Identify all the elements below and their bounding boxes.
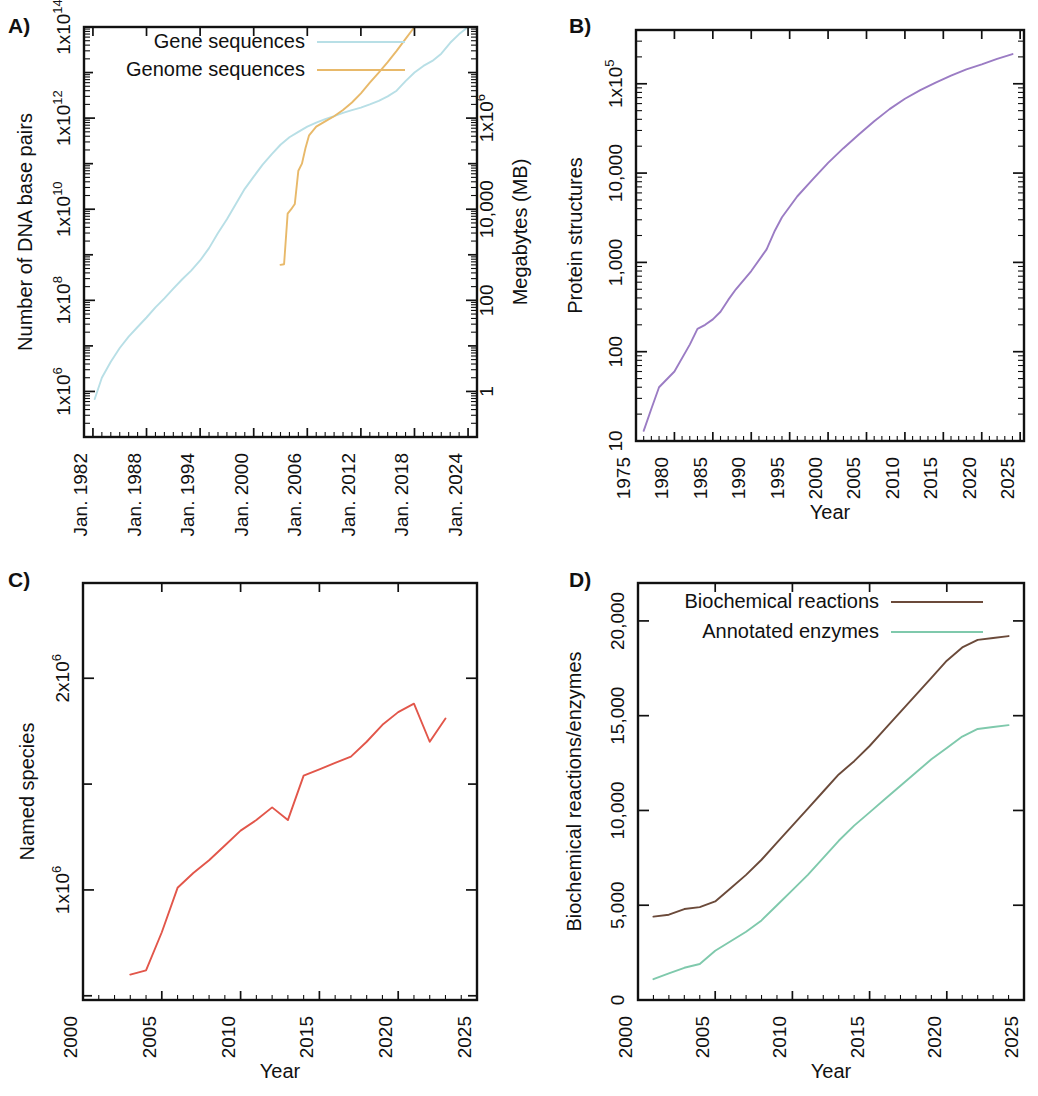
plot-frame (83, 583, 477, 1000)
tick-label: 1x106 (50, 367, 74, 415)
panel-a-letter: A) (8, 14, 30, 38)
tick-label: 1985 (690, 457, 711, 499)
x-axis-label: Year (811, 1060, 852, 1082)
tick-label: 1x105 (602, 60, 626, 108)
series-line-0 (644, 54, 1013, 431)
panel-b-chart: 1975198019851990199520002005201020152020… (519, 0, 1038, 560)
tick-label: 2010 (882, 457, 903, 499)
x-axis-label: Year (810, 501, 851, 523)
y-axis-label: Number of DNA base pairs (14, 113, 36, 351)
panel-b-letter: B) (569, 14, 591, 38)
tick-label: Jan. 2018 (391, 453, 412, 536)
panel-a: A) Jan. 1982Jan. 1988Jan. 1994Jan. 2000J… (0, 0, 519, 560)
panel-d-letter: D) (569, 568, 591, 592)
panel-d-chart: 20002005201020152020202505,00010,00015,0… (519, 560, 1038, 1096)
plot-frame (84, 27, 477, 437)
legend-label: Biochemical reactions (684, 590, 879, 612)
tick-label: 1x108 (50, 276, 74, 324)
tick-label: 15,000 (607, 687, 628, 745)
tick-label: 1x1014 (50, 0, 74, 55)
legend-label: Genome sequences (126, 58, 305, 80)
tick-label: 10,000 (607, 781, 628, 839)
tick-label: 0 (607, 995, 628, 1006)
tick-label: 1980 (651, 457, 672, 499)
tick-label: 1x1010 (50, 181, 74, 237)
tick-label: 2025 (997, 457, 1018, 499)
tick-label: 2010 (769, 1016, 790, 1058)
tick-label: 2015 (296, 1016, 317, 1058)
panel-d: D) 20002005201020152020202505,00010,0001… (519, 560, 1038, 1096)
tick-label: 2005 (843, 457, 864, 499)
tick-label: 2020 (924, 1016, 945, 1058)
tick-label: 5,000 (607, 881, 628, 929)
panel-c: C) 2000200520102015202020251x1062x106Nam… (0, 560, 519, 1096)
series-line-1 (653, 725, 1008, 979)
x-axis-label: Year (260, 1060, 301, 1082)
tick-label: Jan. 2000 (231, 453, 252, 536)
series-line-0 (653, 636, 1008, 917)
tick-label: 2015 (847, 1016, 868, 1058)
tick-label: 2015 (920, 457, 941, 499)
tick-label: 1995 (767, 457, 788, 499)
tick-label: Jan. 2012 (338, 453, 359, 536)
tick-label: 1975 (613, 457, 634, 499)
tick-label: 1990 (728, 457, 749, 499)
panel-c-chart: 2000200520102015202020251x1062x106Named … (0, 560, 519, 1096)
tick-label: 2010 (218, 1016, 239, 1058)
tick-label: 20,000 (607, 592, 628, 650)
y-axis-label: Named species (16, 723, 38, 861)
tick-label: Jan. 2024 (445, 453, 466, 537)
tick-label: 2x106 (49, 654, 73, 702)
tick-label: 1x1012 (50, 90, 74, 146)
tick-label: 2000 (60, 1016, 81, 1058)
tick-label: Jan. 1994 (177, 453, 198, 537)
tick-label: Jan. 1988 (124, 453, 145, 536)
tick-label: Jan. 1982 (70, 453, 91, 536)
tick-label: 2005 (139, 1016, 160, 1058)
tick-label: 10 (605, 430, 626, 451)
tick-label: 2020 (375, 1016, 396, 1058)
series-line-0 (130, 704, 445, 975)
tick-label: 100 (605, 336, 626, 368)
legend-label: Gene sequences (154, 30, 305, 52)
tick-label: 1 (476, 386, 497, 397)
tick-label: 2020 (959, 457, 980, 499)
plot-frame (636, 30, 1024, 441)
tick-label: 10,000 (476, 180, 497, 238)
tick-label: 2025 (1001, 1016, 1022, 1058)
tick-label: Jan. 2006 (284, 453, 305, 536)
tick-label: 2000 (615, 1016, 636, 1058)
tick-label: 2025 (454, 1016, 475, 1058)
y-axis-label: Protein structures (564, 157, 586, 314)
tick-label: 100 (476, 284, 497, 316)
series-line-0 (95, 27, 468, 399)
tick-label: 1,000 (605, 239, 626, 287)
panel-c-letter: C) (8, 568, 30, 592)
panel-b: B) 1975198019851990199520002005201020152… (519, 0, 1038, 560)
tick-label: 1x106 (473, 94, 497, 142)
tick-label: 2005 (692, 1016, 713, 1058)
legend-label: Annotated enzymes (702, 620, 879, 642)
tick-label: 10,000 (605, 144, 626, 202)
series-line-1 (281, 27, 469, 265)
panel-a-chart: Jan. 1982Jan. 1988Jan. 1994Jan. 2000Jan.… (0, 0, 519, 560)
tick-label: 1x106 (49, 866, 73, 914)
y-axis-label: Biochemical reactions/enzymes (563, 651, 585, 931)
tick-label: 2000 (805, 457, 826, 499)
